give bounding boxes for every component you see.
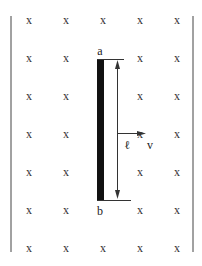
field-x-mark: x <box>63 242 69 254</box>
field-x-mark: x <box>137 204 143 216</box>
rod-top-label: a <box>97 45 102 57</box>
field-x-mark: x <box>63 204 69 216</box>
field-x-mark: x <box>100 14 106 26</box>
field-x-mark: x <box>174 242 180 254</box>
field-x-mark: x <box>100 242 106 254</box>
field-x-mark: x <box>63 90 69 102</box>
length-arrowhead-up-icon <box>115 60 120 69</box>
field-x-mark: x <box>26 14 32 26</box>
field-x-mark: x <box>137 52 143 64</box>
velocity-label: v <box>147 139 153 151</box>
field-x-mark: x <box>63 14 69 26</box>
length-label: ℓ <box>124 139 130 151</box>
conducting-rod <box>97 59 104 201</box>
field-x-mark: x <box>137 242 143 254</box>
rod-bottom-label: b <box>97 205 103 217</box>
field-x-mark: x <box>137 14 143 26</box>
field-x-mark: x <box>26 52 32 64</box>
field-x-mark: x <box>26 204 32 216</box>
field-x-mark: x <box>174 204 180 216</box>
field-x-mark: x <box>174 14 180 26</box>
field-x-mark: x <box>26 242 32 254</box>
field-x-mark: x <box>26 166 32 178</box>
field-x-mark: x <box>26 90 32 102</box>
field-x-mark: x <box>26 128 32 140</box>
length-arrowhead-down-icon <box>115 190 120 199</box>
field-x-mark: x <box>174 166 180 178</box>
field-x-mark: x <box>63 166 69 178</box>
field-x-mark: x <box>63 128 69 140</box>
field-x-mark: x <box>174 128 180 140</box>
field-x-mark: x <box>174 90 180 102</box>
rod-in-magnetic-field-diagram: xxxxxxxxxxxxxxxxxxxxxxxxxxxxxx a b ℓ v <box>0 0 202 266</box>
field-x-mark: x <box>137 90 143 102</box>
field-x-mark: x <box>63 52 69 64</box>
field-x-mark: x <box>137 166 143 178</box>
field-x-mark: x <box>137 128 143 140</box>
field-x-mark: x <box>174 52 180 64</box>
